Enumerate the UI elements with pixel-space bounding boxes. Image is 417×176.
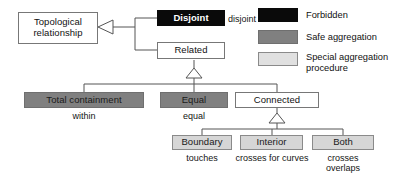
generalization-triangle-related (186, 68, 202, 78)
generalization-triangle-connected (269, 113, 285, 123)
node-connected[interactable]: Connected (235, 92, 319, 108)
caption-total-containment: within (24, 111, 144, 121)
caption-boundary: touches (172, 153, 232, 163)
node-disjoint[interactable]: Disjoint (157, 10, 225, 26)
node-equal[interactable]: Equal (160, 92, 228, 108)
legend-label-forbidden: Forbidden (306, 10, 412, 21)
generalization-triangle-root (98, 20, 113, 34)
node-boundary[interactable]: Boundary (172, 135, 232, 150)
legend-label-special-aggregation: Special aggregation procedure (306, 52, 416, 73)
diagram-canvas: Topological relationship Disjoint disjoi… (0, 0, 417, 176)
caption-equal: equal (160, 111, 228, 121)
node-total-containment[interactable]: Total containment (24, 92, 144, 108)
caption-interior: crosses for curves (232, 153, 312, 163)
legend-swatch-forbidden (258, 8, 298, 22)
legend-label-safe-aggregation: Safe aggregation (306, 32, 412, 43)
node-related[interactable]: Related (157, 42, 225, 59)
node-topological-relationship[interactable]: Topological relationship (18, 12, 98, 44)
legend-swatch-safe-aggregation (258, 30, 298, 44)
node-both[interactable]: Both (312, 135, 374, 150)
node-interior[interactable]: Interior (240, 135, 303, 150)
caption-both: crosses overlaps (312, 153, 374, 173)
legend-swatch-special-aggregation (258, 52, 298, 66)
